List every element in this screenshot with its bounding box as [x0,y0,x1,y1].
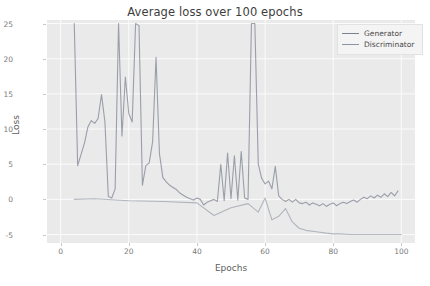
x-tick-label: 0 [46,247,76,256]
y-tick-label: 20 [0,54,13,63]
x-tick-mark [265,243,266,246]
y-tick-mark [43,59,46,60]
legend-item-generator[interactable]: Generator [342,28,418,39]
x-tick-label: 80 [318,247,348,256]
y-tick-label: 5 [0,160,13,169]
series-line-discriminator [74,198,401,235]
x-tick-label: 40 [182,247,212,256]
x-tick-mark [197,243,198,246]
chart-legend: Generator Discriminator [337,24,423,55]
x-tick-label: 20 [114,247,144,256]
y-tick-mark [43,235,46,236]
y-tick-label: 15 [0,89,13,98]
legend-item-discriminator[interactable]: Discriminator [342,39,418,50]
legend-label-discriminator: Discriminator [364,40,414,49]
legend-swatch-generator [342,33,359,34]
chart-figure: Average loss over 100 epochs Loss Epochs… [0,0,430,286]
x-tick-label: 100 [386,247,416,256]
y-tick-mark [43,94,46,95]
chart-title: Average loss over 100 epochs [0,5,430,19]
y-tick-label: 10 [0,125,13,134]
x-tick-mark [333,243,334,246]
x-tick-label: 60 [250,247,280,256]
x-tick-mark [401,243,402,246]
x-axis-label: Epochs [47,263,415,273]
x-tick-mark [129,243,130,246]
legend-swatch-discriminator [342,44,359,45]
y-tick-label: 0 [0,195,13,204]
y-tick-mark [43,164,46,165]
y-tick-label: 25 [0,19,13,28]
y-tick-mark [43,129,46,130]
y-tick-label: -5 [0,230,13,239]
y-tick-mark [43,24,46,25]
legend-label-generator: Generator [364,29,402,38]
y-tick-mark [43,199,46,200]
x-tick-mark [61,243,62,246]
